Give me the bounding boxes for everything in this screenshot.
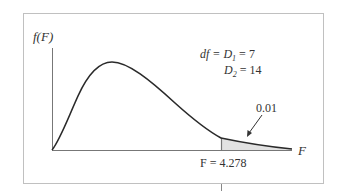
arrow-head-icon [247,130,252,137]
y-axis-label: f(F) [33,29,53,44]
chart-frame [24,14,324,184]
df-label-line1: df = D1 = 7 [200,47,255,63]
tail-area-label: 0.01 [256,101,277,115]
x-axis-label: F [297,143,307,158]
critical-value-label: F = 4.278 [200,156,246,170]
tail-arrow [249,115,262,133]
df-label-line2: D2 = 14 [223,63,261,79]
f-distribution-chart: f(F) F df = D1 = 7 D2 = 14 0.01 F = 4.27… [0,0,342,191]
